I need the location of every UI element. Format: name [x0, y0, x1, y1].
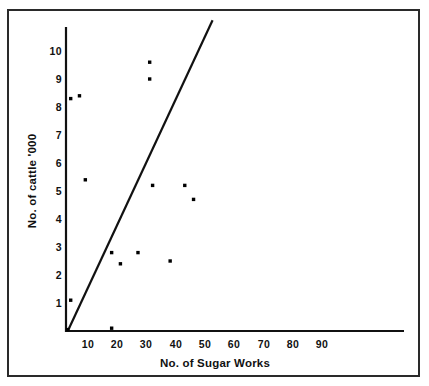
y-tick-label-9: 9: [38, 73, 62, 85]
y-tick-label-10: 10: [38, 45, 62, 57]
x-tick-label-90: 90: [309, 338, 335, 350]
x-tick-label-40: 40: [163, 338, 189, 350]
x-axis-title: No. of Sugar Works: [60, 357, 370, 369]
data-point-marker: [183, 184, 186, 187]
data-point-marker: [84, 178, 87, 181]
data-point-marker: [168, 259, 171, 262]
y-tick-label-1: 1: [38, 297, 62, 309]
axes-group: [66, 27, 404, 332]
data-point-marker: [66, 328, 69, 331]
data-point-marker: [69, 97, 72, 100]
y-tick-label-5: 5: [38, 185, 62, 197]
data-point-marker: [110, 251, 113, 254]
x-tick-label-50: 50: [192, 338, 218, 350]
data-point-marker: [148, 61, 151, 64]
y-tick-label-8: 8: [38, 101, 62, 113]
x-tick-label-30: 30: [133, 338, 159, 350]
y-tick-label-2: 2: [38, 269, 62, 281]
y-tick-label-3: 3: [38, 241, 62, 253]
y-tick-label-6: 6: [38, 157, 62, 169]
x-tick-label-20: 20: [104, 338, 130, 350]
data-point-marker: [69, 299, 72, 302]
x-tick-label-70: 70: [251, 338, 277, 350]
data-point-marker: [78, 94, 81, 97]
data-point-marker: [136, 251, 139, 254]
x-tick-label-60: 60: [221, 338, 247, 350]
x-tick-label-10: 10: [75, 338, 101, 350]
trend-line-icon: [68, 20, 213, 331]
data-point-marker: [148, 77, 151, 80]
data-point-marker: [119, 262, 122, 265]
scatter-plot-canvas: [0, 0, 429, 386]
x-tick-label-80: 80: [280, 338, 306, 350]
data-point-marker: [151, 184, 154, 187]
chart-figure: 10 9 8 7 6 5 4 3 2 1 10 20 30 40 50 60 7…: [0, 0, 429, 386]
y-axis-title: No. of cattle '000: [26, 81, 38, 281]
regression-line: [68, 20, 213, 331]
y-tick-label-4: 4: [38, 213, 62, 225]
data-point-marker: [110, 327, 113, 330]
y-tick-label-7: 7: [38, 129, 62, 141]
data-point-marker: [192, 198, 195, 201]
